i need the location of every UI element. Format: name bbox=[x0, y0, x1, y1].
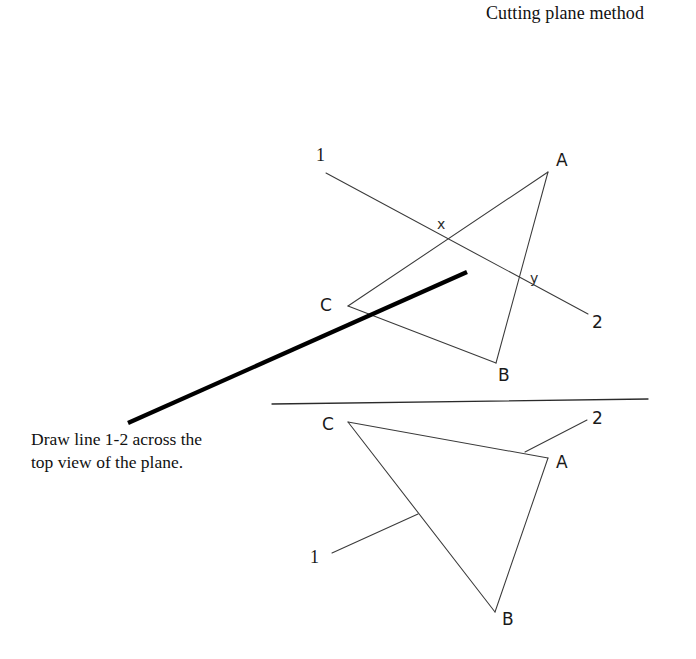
front-label-b: B bbox=[498, 365, 510, 385]
top-label-b: B bbox=[502, 609, 514, 629]
caption-leader-line bbox=[128, 272, 467, 423]
front-label-c: C bbox=[320, 295, 332, 315]
top-triangle-edge-cb bbox=[348, 422, 495, 612]
front-label-x: x bbox=[437, 216, 445, 232]
top-leader-line-2 bbox=[525, 420, 587, 452]
front-triangle-edge-ab bbox=[496, 172, 548, 363]
top-label-2: 2 bbox=[592, 408, 603, 428]
top-leader-line-1 bbox=[332, 514, 418, 553]
technical-drawing: A B C 1 2 x y C A B 1 2 bbox=[0, 0, 696, 659]
top-label-a: A bbox=[556, 452, 568, 472]
top-label-1: 1 bbox=[310, 547, 319, 567]
top-view-group: C A B 1 2 bbox=[310, 408, 603, 629]
front-label-a: A bbox=[556, 150, 568, 170]
top-label-c: C bbox=[322, 414, 334, 434]
top-triangle-edge-ca bbox=[348, 422, 548, 458]
fold-line bbox=[272, 399, 648, 404]
front-label-y: y bbox=[530, 270, 538, 286]
front-view-group: A B C 1 2 x y bbox=[316, 145, 603, 385]
front-label-2: 2 bbox=[592, 312, 603, 332]
front-cutting-line-1-2 bbox=[326, 173, 588, 314]
drawing-canvas: Cutting plane method Draw line 1-2 acros… bbox=[0, 0, 696, 659]
top-triangle-edge-ab bbox=[495, 458, 548, 612]
front-label-1: 1 bbox=[316, 145, 325, 165]
